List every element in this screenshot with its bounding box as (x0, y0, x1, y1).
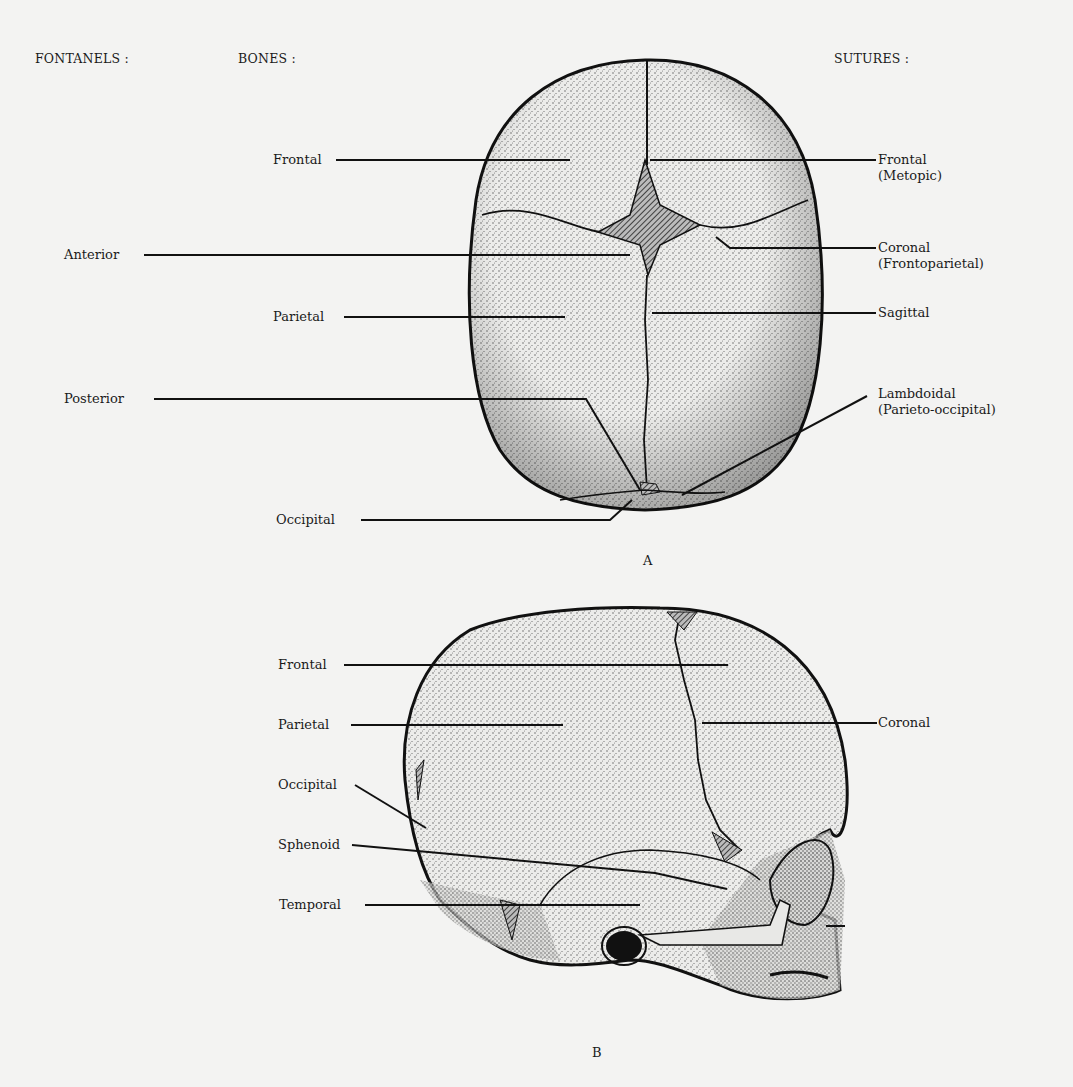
fontanel-label-posterior: Posterior (64, 391, 124, 406)
suture-label-coronal-a: Coronal (878, 240, 930, 255)
skull-lateral-view (404, 608, 847, 1000)
bone-label-occipital-a: Occipital (276, 512, 335, 527)
bone-label-frontal-b: Frontal (278, 657, 327, 672)
suture-sublabel-metopic: (Metopic) (878, 168, 942, 183)
bones-header: BONES : (238, 51, 296, 66)
suture-sublabel-frontoparietal: (Frontoparietal) (878, 256, 984, 271)
suture-label-coronal-b: Coronal (878, 715, 930, 730)
bone-label-parietal-b: Parietal (278, 717, 329, 732)
figure-caption-a: A (643, 553, 652, 568)
bone-label-occipital-b: Occipital (278, 777, 337, 792)
sutures-header: SUTURES : (834, 51, 909, 66)
skull-top-view (469, 60, 822, 510)
bone-label-temporal: Temporal (279, 897, 341, 912)
fontanel-label-anterior: Anterior (64, 247, 119, 262)
figure-caption-b: B (592, 1045, 602, 1060)
bone-label-sphenoid: Sphenoid (278, 837, 340, 852)
fontanels-header: FONTANELS : (35, 51, 129, 66)
suture-label-frontal: Frontal (878, 152, 927, 167)
bone-label-parietal-a: Parietal (273, 309, 324, 324)
suture-label-lambdoidal: Lambdoidal (878, 386, 956, 401)
suture-sublabel-parieto-occipital: (Parieto-occipital) (878, 402, 996, 417)
suture-label-sagittal: Sagittal (878, 305, 930, 320)
bone-label-frontal-a: Frontal (273, 152, 322, 167)
